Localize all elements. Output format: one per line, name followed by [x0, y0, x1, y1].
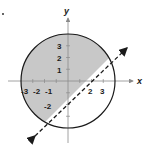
y-tick-label-1: 1 [57, 66, 62, 75]
x-tick-label-2: 2 [88, 87, 93, 96]
diagram-figure: x y -3 -2 -1 2 3 3 2 1 -2 [0, 0, 149, 145]
y-tick-label-3: 3 [57, 42, 62, 51]
y-axis-label: y [63, 6, 70, 16]
corner-mark [2, 13, 4, 15]
x-tick-label-neg2: -2 [33, 87, 41, 96]
y-tick-label-neg2: -2 [44, 102, 52, 111]
y-tick-label-2: 2 [57, 54, 62, 63]
x-tick-label-neg3: -3 [21, 87, 29, 96]
x-tick-label-neg1: -1 [45, 87, 53, 96]
x-axis-label: x [136, 76, 143, 86]
x-tick-label-3: 3 [100, 87, 105, 96]
